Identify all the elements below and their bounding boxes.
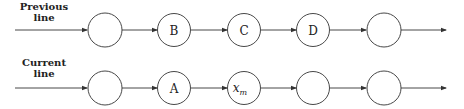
node-empty <box>367 71 401 105</box>
node-empty <box>367 13 401 47</box>
current-line-row <box>15 71 446 105</box>
node-b-label: B <box>170 24 179 38</box>
node-empty <box>297 72 330 105</box>
node-empty <box>88 71 122 105</box>
node-d-label: D <box>308 24 318 38</box>
node-empty <box>88 13 122 47</box>
node-a-label: A <box>169 82 179 96</box>
diagram-canvas: B C D A xm <box>0 0 464 109</box>
node-c-label: C <box>239 24 248 38</box>
previous-line-row <box>15 13 446 47</box>
node-xm-subscript: m <box>240 88 248 97</box>
